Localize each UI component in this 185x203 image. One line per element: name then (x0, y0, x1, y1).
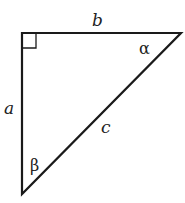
label-angle-beta: β (30, 156, 39, 175)
right-triangle-diagram: b α a c β (0, 0, 185, 203)
triangle-shape (22, 33, 181, 194)
label-side-a: a (4, 98, 14, 118)
label-side-b: b (92, 10, 103, 30)
label-angle-alpha: α (139, 39, 150, 58)
right-angle-marker (22, 33, 36, 48)
label-hypotenuse-c: c (101, 117, 111, 137)
